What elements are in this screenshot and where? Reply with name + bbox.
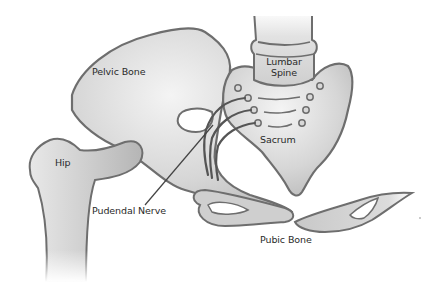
label-lumbar-spine: Lumbar Spine [262,57,306,79]
label-pudendal-nerve: Pudendal Nerve [92,206,166,217]
label-sacrum: Sacrum [260,135,296,146]
label-hip: Hip [55,158,71,169]
speck [419,217,421,219]
pelvis-diagram [0,0,441,282]
label-lumbar-spine-line2: Spine [262,68,306,79]
label-pubic-bone: Pubic Bone [260,235,312,246]
label-pelvic-bone: Pelvic Bone [92,67,145,78]
